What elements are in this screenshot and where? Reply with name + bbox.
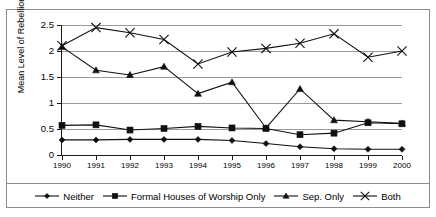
data-point-diamond xyxy=(297,144,303,150)
data-point-diamond xyxy=(229,137,235,143)
chart-legend: NeitherFormal Houses of Worship OnlySep.… xyxy=(7,183,429,208)
x-tick xyxy=(266,156,267,160)
x-tick xyxy=(62,156,63,160)
data-point-cross xyxy=(363,53,372,62)
x-tick xyxy=(232,156,233,160)
data-point-square xyxy=(297,132,303,138)
cross-marker-icon xyxy=(353,191,377,201)
y-tick-label: 1 xyxy=(2,98,54,107)
data-point-diamond xyxy=(195,136,201,142)
x-tick xyxy=(164,156,165,160)
data-point-square xyxy=(161,125,167,131)
data-point-diamond xyxy=(399,146,405,152)
triangle-marker-icon xyxy=(274,191,298,201)
y-tick-label: 2 xyxy=(2,46,54,55)
data-point-triangle xyxy=(161,63,168,69)
x-tick xyxy=(198,156,199,160)
data-point-diamond xyxy=(127,136,133,142)
data-point-triangle xyxy=(297,86,304,92)
y-tick-label: 2.5 xyxy=(2,20,54,29)
y-tick-label: 0 xyxy=(2,150,54,159)
x-tick xyxy=(96,156,97,160)
y-tick-label: 0.5 xyxy=(2,124,54,133)
x-tick-label: 2000 xyxy=(382,161,422,170)
data-point-cross xyxy=(397,46,406,55)
data-point-square xyxy=(127,127,133,133)
x-tick xyxy=(300,156,301,160)
data-point-diamond xyxy=(93,137,99,143)
legend-item-sep-only[interactable]: Sep. Only xyxy=(274,191,344,202)
x-tick xyxy=(130,156,131,160)
series-line-sep-only xyxy=(62,47,402,128)
data-point-square xyxy=(195,123,201,129)
legend-label: Sep. Only xyxy=(302,191,344,202)
y-tick-label: 1.5 xyxy=(2,72,54,81)
data-point-triangle xyxy=(93,67,100,73)
chart-figure: Mean Level of Rebellion 2.5 2 1.5 1 0.5 … xyxy=(0,0,436,217)
data-point-square xyxy=(331,130,337,136)
data-point-diamond xyxy=(59,137,65,143)
data-point-cross xyxy=(329,29,338,38)
legend-label: Both xyxy=(381,191,401,202)
data-point-triangle xyxy=(229,79,236,85)
x-tick xyxy=(368,156,369,160)
data-point-diamond xyxy=(365,146,371,152)
data-point-diamond xyxy=(263,141,269,147)
x-tick xyxy=(402,156,403,160)
data-point-square xyxy=(93,122,99,128)
x-tick xyxy=(334,156,335,160)
legend-label: Neither xyxy=(63,191,94,202)
data-point-cross xyxy=(159,35,168,44)
series-line-both xyxy=(62,28,402,64)
legend-item-both[interactable]: Both xyxy=(353,191,401,202)
legend-item-formal-houses-of-worship-only[interactable]: Formal Houses of Worship Only xyxy=(103,191,265,202)
data-point-diamond xyxy=(45,193,50,198)
data-point-square xyxy=(112,193,117,198)
data-point-diamond xyxy=(331,146,337,152)
series-plot xyxy=(62,25,402,156)
square-marker-icon xyxy=(103,191,127,201)
legend-label: Formal Houses of Worship Only xyxy=(131,191,265,202)
data-point-square xyxy=(59,122,65,128)
data-point-square xyxy=(229,125,235,131)
legend-item-neither[interactable]: Neither xyxy=(35,191,94,202)
data-point-cross xyxy=(193,59,202,68)
data-point-diamond xyxy=(161,136,167,142)
y-axis-title: Mean Level of Rebellion xyxy=(16,0,26,110)
diamond-marker-icon xyxy=(35,191,59,201)
